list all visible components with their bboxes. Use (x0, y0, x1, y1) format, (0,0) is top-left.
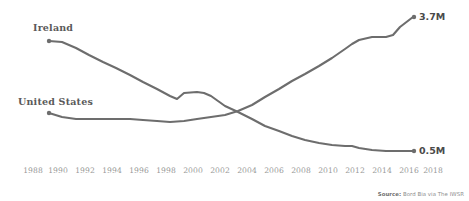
x-tick-1994: 1994 (102, 166, 122, 175)
x-tick-2012: 2012 (345, 166, 365, 175)
x-tick-2016: 2016 (399, 166, 419, 175)
source-text: Bord Bia via The IWSR (403, 191, 464, 197)
united-states-end-value-dot (412, 15, 416, 19)
x-tick-2004: 2004 (237, 166, 257, 175)
end-value-ireland: 0.5M (419, 145, 445, 156)
source-credit: Source: Bord Bia via The IWSR (378, 191, 464, 197)
ireland-endpoint-dot (47, 39, 51, 43)
x-tick-2008: 2008 (291, 166, 311, 175)
x-tick-1990: 1990 (48, 166, 68, 175)
x-tick-1996: 1996 (129, 166, 149, 175)
x-tick-2018: 2018 (423, 166, 443, 175)
x-tick-2000: 2000 (183, 166, 203, 175)
series-label-united-states: United States (18, 96, 93, 107)
ireland-end-value-dot (412, 149, 416, 153)
series-line-ireland (49, 41, 413, 151)
source-prefix: Source: (378, 191, 401, 197)
series-label-ireland: Ireland (33, 22, 73, 33)
x-tick-2002: 2002 (210, 166, 230, 175)
x-tick-2006: 2006 (264, 166, 284, 175)
x-tick-2010: 2010 (318, 166, 338, 175)
line-chart: Ireland United States 3.7M 0.5M 1988 199… (0, 0, 469, 201)
x-tick-1988: 1988 (23, 166, 43, 175)
united-states-endpoint-dot (47, 111, 51, 115)
x-axis-tick-labels: 1988 1990 1992 1994 1996 1998 2000 2002 … (0, 166, 469, 178)
series-line-united-states (49, 17, 413, 122)
end-value-united-states: 3.7M (419, 11, 445, 22)
x-tick-1992: 1992 (75, 166, 95, 175)
x-tick-2014: 2014 (372, 166, 392, 175)
x-tick-1998: 1998 (156, 166, 176, 175)
